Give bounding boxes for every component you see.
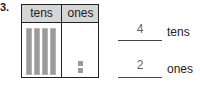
table-header: tens ones — [22, 5, 98, 23]
answer-tens-value[interactable]: 4 — [118, 22, 162, 36]
column-divider — [61, 5, 62, 77]
answer-ones-value[interactable]: 2 — [118, 58, 162, 72]
tens-rod — [50, 28, 56, 75]
answer-tens-label: tens — [167, 25, 190, 39]
ones-unit — [78, 68, 83, 73]
answer-ones-label: ones — [167, 62, 193, 76]
answer-ones-line — [118, 77, 162, 78]
tens-rod — [26, 28, 32, 75]
tens-rod — [34, 28, 40, 75]
problem-number: 3. — [0, 1, 9, 13]
tens-rod — [42, 28, 48, 75]
place-value-table: tens ones — [21, 4, 99, 78]
header-tens: tens — [22, 5, 61, 22]
answer-tens-line — [118, 40, 162, 41]
ones-unit — [78, 61, 83, 66]
header-ones: ones — [62, 5, 99, 22]
